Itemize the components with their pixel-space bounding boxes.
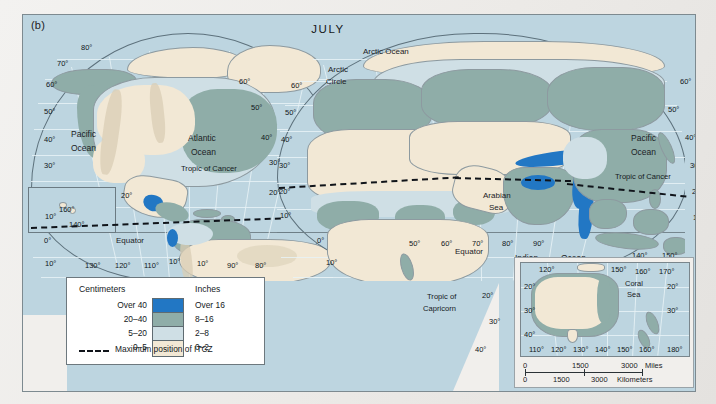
legend-row-in-2-8: 2–8 [195, 328, 209, 338]
aus-lat-30-right: 30° [667, 306, 678, 315]
land-tasmania-cape [567, 329, 578, 343]
aus-lon-180-b: 180° [667, 345, 683, 354]
graticule-parallel [521, 335, 689, 336]
lat-label-10-rl: 10° [280, 211, 291, 220]
scale-miles-tick-3000: 3000 [621, 361, 638, 370]
arctic-circle-label-l2: Circle [326, 77, 346, 86]
legend-row-cm-20-40: 20–40 [75, 314, 147, 324]
lat-label-40-left: 40° [44, 135, 55, 144]
lat-label-60-lr: 60° [239, 77, 250, 86]
lat-label-20s-rr: 20° [482, 291, 493, 300]
sea-label-arabian-l2: Sea [489, 203, 503, 212]
ocean-label-atlantic-l1: Atlantic [188, 133, 216, 143]
precip-queensland-coast [597, 277, 611, 323]
lon-label-80-r: 80° [502, 239, 513, 248]
land-indochina [589, 199, 627, 229]
lat-label-40-lr: 40° [261, 133, 272, 142]
lat-label-0-rl: 0° [317, 236, 324, 245]
aus-lat-20-right: 20° [667, 282, 678, 291]
aus-lon-150: 150° [611, 265, 627, 274]
aus-lon-110-b: 110° [529, 345, 544, 354]
lat-label-20-left: 20° [121, 191, 132, 200]
tropic-of-cancer-label-east: Tropic of Cancer [615, 172, 671, 181]
lon-label-50-r: 50° [409, 239, 420, 248]
lat-label-30-rr2: 30° [690, 161, 696, 170]
aus-lon-160: 160° [635, 267, 651, 276]
tropic-of-capricorn-l1: Tropic of [427, 292, 456, 301]
aus-lon-120: 120° [539, 265, 555, 274]
lat-label-40-rl: 40° [281, 135, 292, 144]
scale-miles-tick-1500: 1500 [572, 361, 589, 370]
arctic-circle-label-l1: Arctic [328, 65, 348, 74]
scale-bar-tick [584, 369, 585, 376]
tropic-of-capricorn-l2: Capricorn [423, 304, 456, 313]
equator-label-west: Equator [116, 236, 144, 245]
legend-itcz-label: Maximum position of ITCZ [115, 344, 213, 354]
equator-label-east: Equator [455, 247, 483, 256]
scale-km-tick-0: 0 [523, 375, 527, 384]
legend-header-inches: Inches [195, 284, 220, 294]
lat-label-30-rl: 30° [279, 161, 290, 170]
legend-row-cm-5-20: 5–20 [75, 328, 147, 338]
lon-label-90-near: 10° [197, 259, 208, 268]
australia-inset-map: 120° 150° 160° 170° 20° 30° 40° 20° 30° … [520, 262, 690, 357]
ocean-label-pacific-west-l1: Pacific [71, 129, 96, 139]
ocean-label-pacific-west-l2: Ocean [71, 143, 96, 153]
ocean-label-atlantic-l2: Ocean [191, 147, 216, 157]
aus-lat-40-left: 40° [524, 330, 535, 339]
ocean-label-pacific-east-l1: Pacific [631, 133, 656, 143]
lat-label-30-left: 30° [44, 161, 55, 170]
graticule-meridian [632, 263, 638, 356]
lat-label-50-left: 50° [44, 107, 55, 116]
scale-km-unit: Kilometers [617, 375, 652, 384]
sea-label-arabian-l1: Arabian [483, 191, 511, 200]
lon-label-160-inset: 160° [59, 205, 75, 214]
tropic-of-cancer-label-west: Tropic of Cancer [181, 164, 237, 173]
lat-label-40-rr2: 40° [685, 133, 696, 142]
lat-label-10-left: 10° [45, 212, 56, 221]
land-new-guinea-inset [577, 263, 605, 272]
aus-lon-160-b: 160° [639, 345, 655, 354]
aus-lon-170: 170° [659, 267, 675, 276]
precip-eastern-north-america [181, 89, 277, 173]
lon-label-110: 110° [144, 261, 159, 270]
precip-western-ghats-heavy [521, 175, 555, 190]
scale-miles-unit: Miles [645, 361, 663, 370]
precip-western-china [563, 137, 607, 179]
sea-label-coral-l1: Coral [625, 279, 643, 288]
aus-lon-150-b: 150° [617, 345, 633, 354]
precip-east-siberia [547, 67, 665, 131]
aus-lon-130-b: 130° [573, 345, 589, 354]
legend-header-centimeters: Centimeters [79, 284, 125, 294]
aus-lon-140-b: 140° [595, 345, 611, 354]
legend-itcz-dash-icon [79, 350, 109, 352]
sea-label-coral-l2: Sea [627, 290, 640, 299]
lat-label-0-left: 0° [44, 236, 51, 245]
legend-row-in-8-16: 8–16 [195, 314, 214, 324]
lon-label-90: 90° [227, 261, 238, 270]
lon-label-60-r: 60° [441, 239, 452, 248]
lon-label-80: 80° [255, 261, 266, 270]
aus-lat-20-left: 20° [524, 282, 535, 291]
lat-label-70: 70° [57, 59, 68, 68]
legend-panel: Centimeters Inches Over 40 Over 16 20–40… [66, 277, 265, 365]
lat-label-50-rl: 50° [285, 108, 296, 117]
lat-label-60-rl: 60° [291, 81, 302, 90]
scale-km-tick-3000: 3000 [591, 375, 608, 384]
scale-km-tick-1500: 1500 [553, 375, 570, 384]
ocean-label-pacific-east-l2: Ocean [631, 147, 656, 157]
lat-label-20-rr2: 20° [692, 187, 696, 196]
precip-central-asia-north [421, 69, 553, 129]
lat-label-80: 80° [81, 43, 92, 52]
australia-inset-panel: 120° 150° 160° 170° 20° 30° 40° 20° 30° … [514, 257, 694, 388]
lon-label-120: 120° [115, 261, 131, 270]
lat-label-50-lr: 50° [251, 103, 262, 112]
aus-lat-30-left: 30° [524, 306, 535, 315]
lat-label-30s-rr: 30° [489, 317, 500, 326]
legend-row-in-over16: Over 16 [195, 300, 225, 310]
lat-label-60-rr: 60° [680, 77, 691, 86]
lon-label-90-r: 90° [533, 239, 544, 248]
figure-root: 80° 70° 60° 50° 40° 30° 20° 10° 0° 10° 1… [0, 0, 716, 404]
lat-label-40s-rr: 40° [475, 345, 486, 354]
lat-label-10s-rl: 10° [326, 258, 337, 267]
